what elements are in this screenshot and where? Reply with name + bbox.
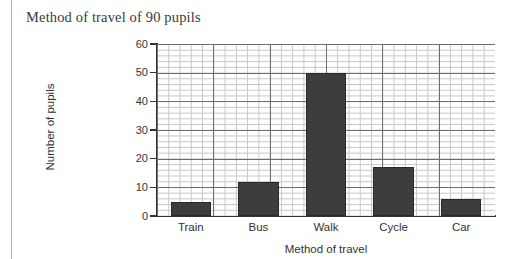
bar-bus — [238, 182, 279, 216]
y-axis-tick-label: 20 — [120, 153, 148, 164]
y-axis-tick-label: 40 — [120, 96, 148, 107]
y-axis-tick-label: 0 — [120, 211, 148, 222]
x-axis-tick-label-bus: Bus — [225, 222, 293, 234]
bar-car — [441, 199, 482, 216]
y-axis-title: Number of pupils — [44, 52, 56, 202]
bar-train — [171, 202, 212, 216]
plot-area — [157, 44, 495, 216]
y-axis-tick — [150, 215, 157, 216]
y-axis-tick-label: 60 — [120, 39, 148, 50]
bar-cycle — [373, 167, 414, 216]
y-axis-tick — [150, 187, 157, 188]
bar-walk — [306, 73, 347, 216]
chart-title: Method of travel of 90 pupils — [26, 9, 201, 26]
y-axis-tick-label: 10 — [120, 182, 148, 193]
x-axis-title: Method of travel — [157, 243, 495, 255]
y-axis-tick — [150, 101, 157, 102]
x-axis-tick-label-cycle: Cycle — [360, 222, 428, 234]
y-axis-tick — [150, 129, 157, 130]
y-axis-tick-label: 30 — [120, 125, 148, 136]
y-axis-tick — [150, 72, 157, 73]
x-axis-tick-label-car: Car — [427, 222, 495, 234]
y-axis-tick — [150, 43, 157, 44]
bar-chart-figure: Method of travel of 90 pupils Number of … — [0, 0, 517, 259]
x-axis-tick-labels: TrainBusWalkCycleCar — [157, 222, 495, 238]
y-axis-tick — [150, 158, 157, 159]
y-axis-tick-labels: 0102030405060 — [116, 0, 148, 259]
x-axis-tick-label-train: Train — [157, 222, 225, 234]
x-axis-tick-label-walk: Walk — [292, 222, 360, 234]
y-axis-tick-label: 50 — [120, 67, 148, 78]
